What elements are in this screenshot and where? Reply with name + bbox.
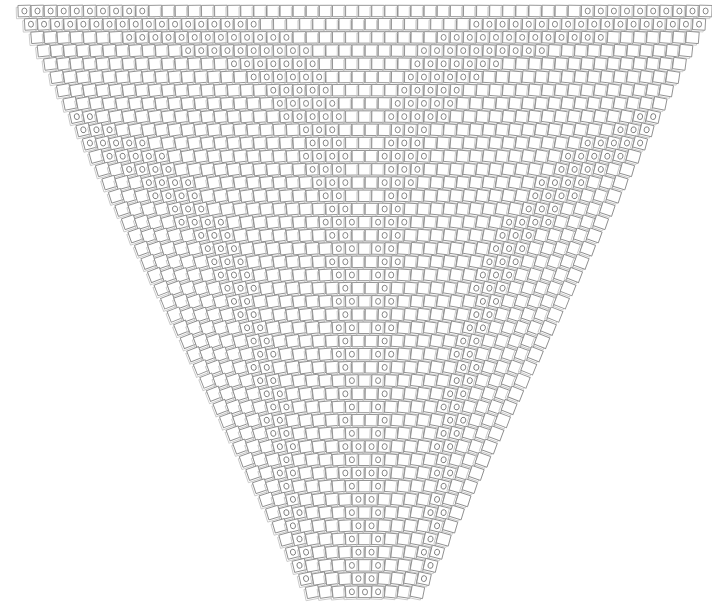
tile-outline [345, 296, 358, 308]
tile-outline [345, 216, 358, 228]
tile [232, 18, 247, 31]
tile-outline [359, 58, 372, 69]
tile-outline [346, 58, 359, 69]
tile-outline [233, 360, 248, 375]
tile [370, 111, 385, 124]
tile [23, 18, 38, 32]
tile [55, 31, 70, 45]
tile [363, 256, 378, 269]
tile-outline [122, 162, 137, 176]
tile [350, 150, 364, 163]
tile [232, 71, 247, 85]
tile-outline [365, 150, 378, 161]
tile [350, 335, 365, 348]
tile [331, 137, 346, 151]
tile-outline [515, 242, 530, 256]
tile [258, 97, 273, 111]
tile-outline [246, 360, 261, 374]
tile [344, 190, 359, 203]
tile-outline [246, 387, 261, 401]
tile-outline [266, 505, 281, 520]
tile [468, 18, 483, 31]
tile [206, 18, 221, 32]
tile-outline [181, 228, 196, 242]
tile-outline [82, 136, 97, 150]
tile [416, 71, 431, 85]
tile [324, 18, 338, 31]
tile [573, 18, 588, 32]
tile-outline [188, 5, 201, 17]
tile [317, 163, 332, 177]
tile [311, 98, 326, 112]
tile [337, 177, 352, 191]
tile [219, 18, 234, 32]
tile [416, 18, 431, 31]
tile [684, 5, 699, 19]
tile-outline [593, 162, 608, 176]
tile [317, 269, 332, 283]
tile-outline [259, 413, 274, 427]
tile-outline [521, 228, 536, 242]
tile-outline [332, 58, 345, 70]
tile [245, 18, 260, 31]
tile [376, 177, 391, 191]
tile-outline [359, 375, 372, 386]
tile [350, 282, 365, 295]
tile-outline [436, 453, 451, 467]
tile-outline [626, 149, 641, 163]
tile [330, 322, 345, 336]
tile-outline [215, 5, 228, 17]
tile [350, 256, 365, 269]
tile-outline [332, 111, 345, 123]
tile-outline [475, 347, 490, 361]
tile [357, 401, 371, 414]
tile [311, 282, 326, 296]
tile-outline [155, 18, 168, 30]
tile-outline [528, 241, 543, 255]
tile-outline [352, 177, 365, 188]
tile [271, 97, 286, 111]
tile [199, 31, 214, 45]
tile [357, 137, 371, 150]
tile-outline [359, 296, 372, 307]
tile-outline [220, 307, 235, 321]
tile [331, 32, 345, 45]
tile-outline [326, 71, 339, 83]
tile [389, 98, 404, 112]
tile-outline [266, 479, 281, 493]
tile [357, 322, 371, 335]
tile-outline [332, 32, 345, 43]
tile-outline [613, 175, 628, 190]
tile [357, 58, 371, 71]
tile-outline [346, 137, 359, 149]
tile [331, 84, 346, 97]
tile [278, 163, 293, 177]
tile [363, 71, 377, 84]
tile [121, 31, 136, 45]
tile [416, 45, 431, 58]
tile-outline [560, 202, 575, 216]
tile-outline [259, 492, 274, 507]
tile-outline [450, 5, 463, 16]
tile [671, 5, 686, 19]
tile [390, 71, 405, 84]
tile [409, 58, 424, 72]
tile-outline [666, 70, 680, 83]
tile [330, 216, 345, 230]
tile [370, 84, 384, 97]
tile [481, 18, 496, 31]
tile-outline [253, 374, 268, 388]
tile [324, 98, 339, 112]
tile [265, 32, 280, 46]
tile [475, 5, 490, 18]
tile [272, 71, 287, 85]
tile-outline [194, 255, 209, 269]
tile-outline [213, 294, 228, 308]
tile [134, 5, 149, 18]
tile [350, 18, 364, 31]
tile-outline [220, 334, 235, 349]
tile-outline [463, 5, 476, 17]
tile [344, 322, 359, 336]
tile-outline [339, 98, 352, 110]
tile [232, 97, 247, 111]
